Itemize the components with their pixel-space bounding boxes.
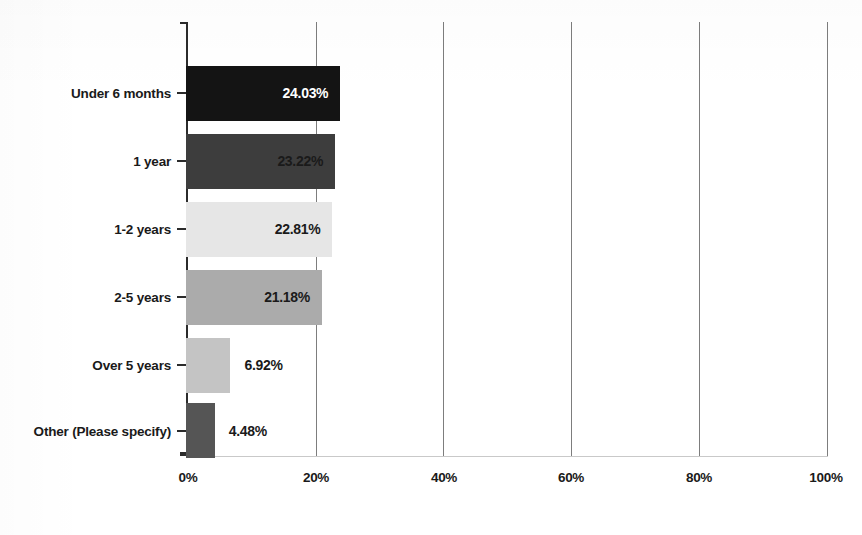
category-label-3: 2-5 years bbox=[114, 290, 171, 305]
category-tick-5 bbox=[177, 430, 186, 432]
x-tick-label-100: 100% bbox=[809, 470, 842, 485]
gridline-100 bbox=[827, 22, 828, 456]
bar-chart: Under 6 months 24.03% 1 year 23.22% 1-2 … bbox=[0, 0, 862, 535]
x-axis-baseline bbox=[186, 456, 828, 457]
category-label-4: Over 5 years bbox=[92, 358, 171, 373]
bar-5[interactable] bbox=[186, 403, 215, 458]
x-tick-label-20: 20% bbox=[303, 470, 329, 485]
gridline-40 bbox=[443, 22, 444, 456]
bar-value-label-1: 23.22% bbox=[277, 153, 323, 169]
category-tick-1 bbox=[177, 160, 186, 162]
category-label-1: 1 year bbox=[133, 154, 171, 169]
bar-value-label-0: 24.03% bbox=[283, 85, 329, 101]
category-tick-0 bbox=[177, 92, 186, 94]
category-label-0: Under 6 months bbox=[71, 86, 171, 101]
gridline-60 bbox=[571, 22, 572, 456]
category-label-2: 1-2 years bbox=[114, 222, 171, 237]
category-tick-4 bbox=[177, 364, 186, 366]
bar-value-label-3: 21.18% bbox=[264, 289, 310, 305]
x-tick-label-60: 60% bbox=[558, 470, 584, 485]
bar-value-label-4: 6.92% bbox=[244, 357, 282, 373]
category-tick-2 bbox=[177, 228, 186, 230]
y-axis-top-tick bbox=[180, 22, 188, 24]
bar-value-label-2: 22.81% bbox=[275, 221, 321, 237]
category-label-5: Other (Please specify) bbox=[34, 424, 171, 439]
x-tick-label-40: 40% bbox=[431, 470, 457, 485]
x-tick-label-80: 80% bbox=[686, 470, 712, 485]
bar-4[interactable] bbox=[186, 338, 230, 393]
x-tick-label-0: 0% bbox=[179, 470, 198, 485]
bar-value-label-5: 4.48% bbox=[229, 423, 267, 439]
gridline-80 bbox=[699, 22, 700, 456]
category-tick-3 bbox=[177, 296, 186, 298]
